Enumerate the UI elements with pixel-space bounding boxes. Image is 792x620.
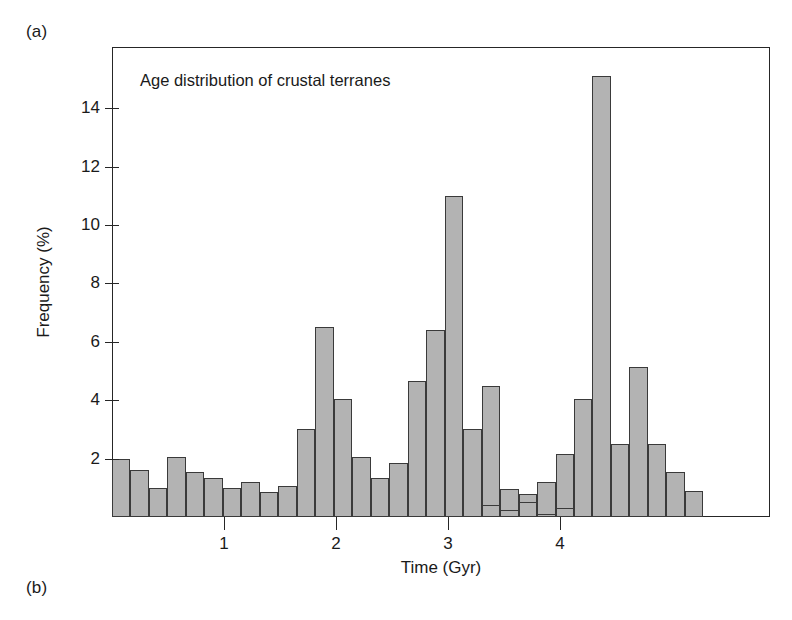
histogram-bar: [666, 472, 684, 517]
y-axis-tick-label: 10: [81, 215, 100, 235]
histogram-bar: [186, 472, 204, 517]
histogram-bar-tail: [556, 508, 574, 517]
histogram-bars: [112, 47, 770, 517]
x-axis-tick-label: 1: [219, 534, 228, 554]
histogram-bar: [167, 457, 185, 517]
histogram-bar-tail: [500, 510, 518, 517]
histogram-bar: [223, 488, 241, 517]
histogram-bar: [611, 444, 629, 517]
x-axis-tick-label: 2: [331, 534, 340, 554]
y-axis-tick-label: 8: [91, 273, 100, 293]
histogram-bar: [149, 488, 167, 517]
y-axis-tick: [105, 167, 119, 168]
y-axis-tick-label: 12: [81, 157, 100, 177]
histogram-bar: [371, 478, 389, 517]
figure-panel-a: (a) (b) Age distribution of crustal terr…: [0, 0, 792, 620]
histogram-bar: [278, 486, 296, 517]
histogram-bar-tail: [537, 514, 555, 517]
x-axis-tick: [336, 517, 337, 530]
histogram-bar: [260, 492, 278, 517]
histogram-bar: [112, 459, 130, 517]
y-axis-tick: [105, 225, 119, 226]
histogram-bar: [482, 386, 500, 517]
y-axis-tick-label: 14: [81, 98, 100, 118]
histogram-bar: [685, 491, 703, 517]
x-axis-tick-label: 4: [555, 534, 564, 554]
histogram-bar: [241, 482, 259, 517]
histogram-bar: [537, 482, 555, 517]
x-axis-label: Time (Gyr): [112, 558, 770, 578]
panel-a-label: (a): [26, 22, 47, 42]
y-axis-tick-label: 2: [91, 449, 100, 469]
histogram-bar-tail: [482, 505, 500, 517]
histogram-bar: [648, 444, 666, 517]
histogram-bar: [592, 76, 610, 517]
histogram-bar: [315, 327, 333, 517]
histogram-bar: [334, 399, 352, 517]
y-axis-tick: [105, 283, 119, 284]
histogram-bar: [389, 463, 407, 517]
y-axis-tick-label: 6: [91, 332, 100, 352]
histogram-bar: [204, 478, 222, 517]
histogram-bar: [426, 330, 444, 517]
y-axis-tick: [105, 400, 119, 401]
histogram-bar: [574, 399, 592, 517]
histogram-bar: [463, 429, 481, 517]
y-axis-tick-label: 4: [91, 390, 100, 410]
y-axis-tick: [105, 342, 119, 343]
panel-b-label: (b): [26, 578, 47, 598]
x-axis-tick: [448, 517, 449, 530]
y-axis-tick: [105, 108, 119, 109]
x-axis-tick-label: 3: [443, 534, 452, 554]
histogram-bar: [297, 429, 315, 517]
histogram-bar: [352, 457, 370, 517]
y-axis-label: Frequency (%): [34, 47, 54, 517]
histogram-bar: [445, 196, 463, 517]
x-axis-tick: [560, 517, 561, 530]
plot-area: Age distribution of crustal terranes 246…: [112, 47, 770, 517]
histogram-bar: [629, 367, 647, 517]
histogram-bar-tail: [519, 502, 537, 517]
histogram-bar: [408, 381, 426, 517]
x-axis-tick: [224, 517, 225, 530]
histogram-bar: [130, 470, 148, 517]
y-axis-tick: [105, 459, 119, 460]
